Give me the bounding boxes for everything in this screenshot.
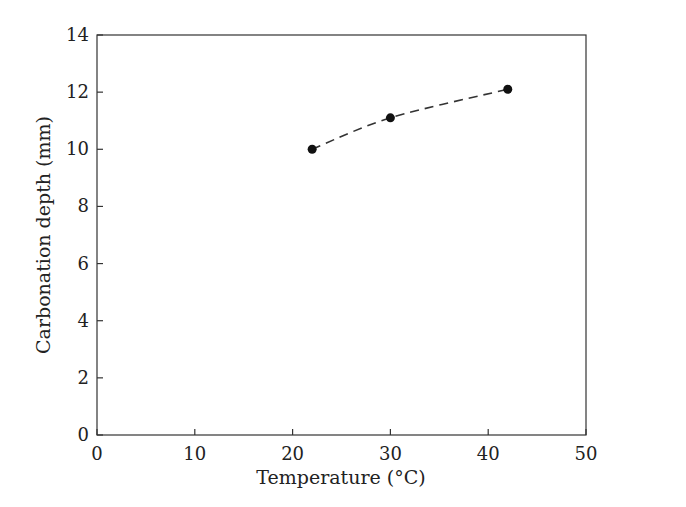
data-point — [308, 145, 317, 154]
x-axis-ticks: 01020304050 — [91, 429, 597, 464]
y-tick-label: 8 — [78, 195, 89, 216]
plot-frame — [97, 35, 586, 435]
x-tick-label: 20 — [281, 443, 304, 464]
x-tick-label: 40 — [477, 443, 500, 464]
y-tick-label: 0 — [78, 424, 89, 445]
x-tick-label: 10 — [183, 443, 206, 464]
x-tick-label: 30 — [379, 443, 402, 464]
y-tick-label: 14 — [66, 24, 89, 45]
y-tick-label: 4 — [78, 310, 89, 331]
series-dashed-line — [312, 89, 508, 149]
y-tick-label: 6 — [78, 253, 89, 274]
x-tick-label: 0 — [91, 443, 102, 464]
x-tick-label: 50 — [575, 443, 598, 464]
chart: 01020304050 02468101214 Temperature (°C)… — [0, 0, 686, 507]
x-axis-label: Temperature (°C) — [256, 466, 425, 488]
y-tick-label: 10 — [66, 138, 89, 159]
data-point — [386, 113, 395, 122]
data-markers — [308, 85, 513, 154]
y-tick-label: 2 — [78, 367, 89, 388]
data-point — [503, 85, 512, 94]
y-tick-label: 12 — [66, 81, 89, 102]
y-axis-label: Carbonation depth (mm) — [32, 116, 54, 354]
